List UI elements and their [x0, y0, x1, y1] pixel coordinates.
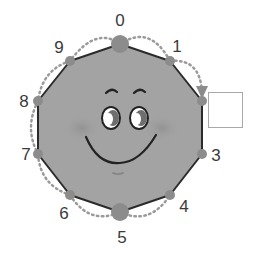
vertex-dot-0 [111, 35, 129, 53]
left-eye [102, 107, 120, 129]
vertex-label-6: 6 [59, 205, 68, 222]
vertex-dot-2 [197, 96, 207, 106]
vertex-dot-7 [33, 149, 43, 159]
vertex-label-3: 3 [211, 147, 220, 164]
vertex-dot-8 [33, 96, 43, 106]
vertex-dot-6 [65, 190, 75, 200]
vertex-dot-3 [197, 149, 207, 159]
decagon-diagram [0, 0, 259, 259]
vertex-label-0: 0 [115, 12, 124, 29]
vertex-label-9: 9 [54, 39, 63, 56]
answer-box[interactable] [208, 92, 243, 128]
vertex-label-5: 5 [117, 229, 126, 246]
vertex-dot-9 [65, 56, 75, 66]
vertex-dot-4 [165, 190, 175, 200]
vertex-label-1: 1 [172, 38, 181, 55]
vertex-label-7: 7 [21, 146, 30, 163]
left-cheek [62, 114, 102, 142]
chin-mark [113, 173, 123, 174]
vertex-dot-5 [111, 203, 129, 221]
vertex-label-4: 4 [179, 198, 188, 215]
vertex-dot-1 [165, 56, 175, 66]
vertex-label-8: 8 [19, 93, 28, 110]
right-eye [130, 107, 148, 129]
